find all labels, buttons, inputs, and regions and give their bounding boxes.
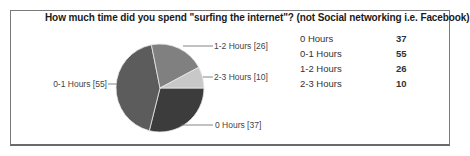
- row-value: 26: [396, 63, 407, 74]
- table-row: 0 Hours 37: [300, 33, 410, 48]
- table-row: 0-1 Hours 55: [300, 48, 410, 63]
- label-0-hours: 0 Hours [37]: [215, 120, 261, 130]
- row-value: 55: [396, 48, 407, 59]
- data-table: 0 Hours 37 0-1 Hours 55 1-2 Hours 26 2-3…: [300, 33, 410, 93]
- label-0-1-hours: 0-1 Hours [55]: [53, 79, 107, 89]
- pie-slices: [116, 44, 204, 132]
- row-label: 0 Hours: [300, 33, 333, 44]
- row-label: 1-2 Hours: [300, 63, 342, 74]
- row-value: 37: [396, 33, 407, 44]
- table-row: 1-2 Hours 26: [300, 63, 410, 78]
- label-1-2-hours: 1-2 Hours [26]: [214, 41, 268, 51]
- row-label: 2-3 Hours: [300, 78, 342, 89]
- row-value: 10: [396, 78, 407, 89]
- label-2-3-hours: 2-3 Hours [10]: [214, 72, 268, 82]
- table-row: 2-3 Hours 10: [300, 78, 410, 93]
- row-label: 0-1 Hours: [300, 48, 342, 59]
